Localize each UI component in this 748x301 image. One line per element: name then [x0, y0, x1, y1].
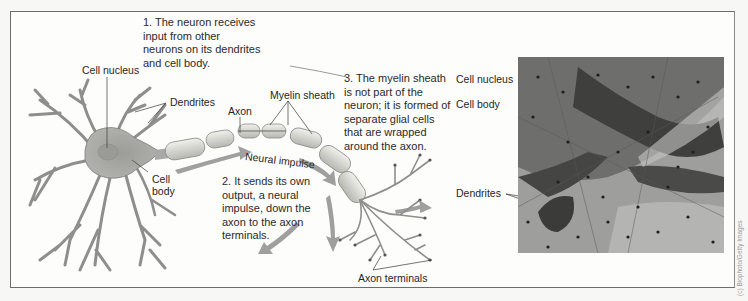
photo-label-cell-body: Cell body [456, 98, 500, 111]
label-axon-terminals: Axon terminals [358, 272, 427, 285]
label-cell-body-line1: Cell [152, 173, 170, 186]
label-myelin-sheath: Myelin sheath [270, 89, 335, 102]
note-step-2: 2. It sends its own output, a neural imp… [222, 175, 311, 243]
note-step-3: 3. The myelin sheath is not part of the … [344, 72, 450, 153]
micrograph-image-icon [518, 57, 724, 253]
photo-label-cell-nucleus: Cell nucleus [456, 73, 513, 86]
label-axon: Axon [228, 105, 252, 118]
cell-nucleus-shape [98, 144, 118, 160]
photo-credit: (c) Biophoto/Getty Images [736, 220, 743, 296]
cell-body-shape [85, 127, 160, 178]
neuron-micrograph [518, 57, 724, 253]
note-step-1: 1. The neuron receives input from other … [143, 16, 260, 70]
photo-label-dendrites: Dendrites [456, 187, 501, 200]
label-cell-nucleus: Cell nucleus [82, 64, 139, 77]
label-cell-body-line2: body [152, 185, 175, 198]
label-dendrites: Dendrites [170, 96, 215, 109]
